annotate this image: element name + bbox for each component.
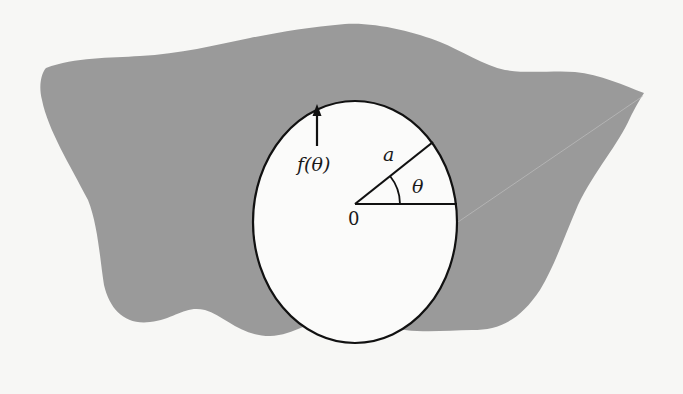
label-origin: 0 (348, 208, 359, 229)
label-boundary-function: f(θ) (295, 153, 330, 175)
diagram-canvas: f(θ) a θ 0 (0, 0, 683, 394)
diagram-figure: f(θ) a θ 0 (0, 0, 683, 394)
label-radius: a (383, 143, 394, 165)
label-angle: θ (412, 175, 424, 197)
